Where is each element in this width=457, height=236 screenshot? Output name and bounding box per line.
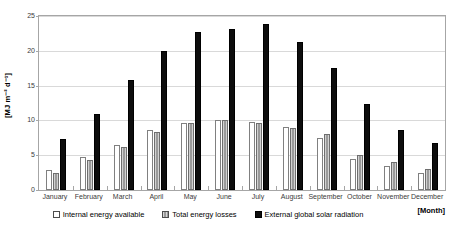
bar-group — [411, 16, 445, 190]
bar — [60, 139, 66, 191]
bar — [283, 127, 289, 190]
bar — [154, 132, 160, 190]
legend-swatch-icon — [255, 211, 262, 218]
x-axis-tickmark — [411, 186, 412, 190]
y-axis-title-text: [MJ m⁻² d⁻¹] — [4, 72, 13, 117]
x-axis-tickmark — [310, 186, 311, 190]
bar — [53, 173, 59, 190]
bar — [418, 173, 424, 190]
bar — [114, 145, 120, 190]
x-axis-tickmark — [242, 186, 243, 190]
bar-group — [242, 16, 276, 190]
bar — [222, 120, 228, 190]
bar — [215, 120, 221, 190]
bar-group — [107, 16, 141, 190]
x-axis-tick-label: January — [42, 193, 67, 200]
x-axis-tick-label: December — [411, 193, 443, 200]
x-axis-tick-label: May — [184, 193, 197, 200]
y-axis-tick-label: 10 — [27, 116, 35, 123]
bar-group — [73, 16, 107, 190]
chart-legend: Internal energy availableTotal energy lo… — [38, 207, 378, 221]
bar — [317, 138, 323, 190]
x-axis-tickmark — [208, 186, 209, 190]
bar — [229, 29, 235, 190]
legend-item: External global solar radiation — [255, 210, 364, 219]
bar-group — [39, 16, 73, 190]
legend-label: Internal energy available — [63, 210, 145, 219]
x-axis-tick-label: February — [75, 193, 103, 200]
y-axis-tick-label: 25 — [27, 12, 35, 19]
bar — [357, 155, 363, 190]
bar — [364, 104, 370, 190]
x-axis-tick-label: July — [252, 193, 264, 200]
x-axis-tick-label: June — [216, 193, 231, 200]
bar — [297, 42, 303, 190]
bar — [46, 170, 52, 190]
legend-item: Total energy losses — [162, 210, 236, 219]
bar-group — [377, 16, 411, 190]
bar — [324, 134, 330, 190]
bar — [188, 123, 194, 190]
bar — [195, 32, 201, 190]
bar-group — [276, 16, 310, 190]
legend-swatch-icon — [162, 211, 169, 218]
x-axis-tick-label: November — [377, 193, 409, 200]
legend-swatch-icon — [53, 211, 60, 218]
x-axis-tickmark — [73, 186, 74, 190]
bar — [263, 24, 269, 190]
x-axis-tick-label: April — [149, 193, 163, 200]
bar — [128, 80, 134, 190]
bar — [391, 162, 397, 190]
legend-item: Internal energy available — [53, 210, 145, 219]
bar — [121, 147, 127, 190]
bar — [87, 160, 93, 190]
bar — [350, 159, 356, 190]
y-axis-tick-label: 0 — [31, 186, 35, 193]
x-axis-tickmark — [344, 186, 345, 190]
bar-group — [310, 16, 344, 190]
legend-label: Total energy losses — [172, 210, 236, 219]
bar — [398, 130, 404, 190]
bar — [256, 123, 262, 191]
y-axis-tick-label: 15 — [27, 81, 35, 88]
y-axis-title: [MJ m⁻² d⁻¹] — [0, 0, 16, 190]
y-axis-tick-label: 5 — [31, 151, 35, 158]
bar — [161, 51, 167, 190]
x-axis-tick-label: October — [347, 193, 372, 200]
plot-area — [38, 15, 446, 191]
x-axis-tick-label: August — [281, 193, 303, 200]
bar — [425, 169, 431, 190]
x-axis-tickmark — [141, 186, 142, 190]
bar-group — [174, 16, 208, 190]
bar — [249, 122, 255, 190]
bar — [384, 166, 390, 190]
x-axis-tick-labels: JanuaryFebruaryMarchAprilMayJuneJulyAugu… — [38, 193, 446, 207]
y-axis-tick-labels: 0510152025 — [16, 15, 38, 191]
solar-energy-bar-chart: [MJ m⁻² d⁻¹] 0510152025 JanuaryFebruaryM… — [0, 0, 457, 236]
legend-label: External global solar radiation — [265, 210, 364, 219]
x-axis-tickmark — [377, 186, 378, 190]
bar — [432, 143, 438, 190]
bar — [331, 68, 337, 190]
x-axis-title: [Month] — [418, 206, 445, 215]
x-axis-tickmark — [107, 186, 108, 190]
y-axis-tickmark — [36, 190, 39, 191]
x-axis-tickmark — [174, 186, 175, 190]
bar — [290, 128, 296, 190]
bar — [147, 130, 153, 190]
bar-group — [208, 16, 242, 190]
x-axis-tick-label: September — [308, 193, 342, 200]
bar — [94, 114, 100, 190]
bar-group — [344, 16, 378, 190]
x-axis-tickmark — [276, 186, 277, 190]
bar — [80, 157, 86, 190]
bar-group — [141, 16, 175, 190]
y-axis-tick-label: 20 — [27, 46, 35, 53]
bar — [181, 123, 187, 191]
x-axis-tick-label: March — [113, 193, 132, 200]
